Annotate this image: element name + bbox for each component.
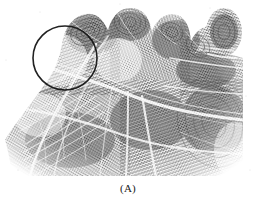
palmprint-canvas [0,0,256,178]
figure-caption: (A) [0,182,256,195]
palmprint-image [0,0,256,178]
figure-panel: (A) [0,0,256,203]
ink-impression [0,0,256,178]
